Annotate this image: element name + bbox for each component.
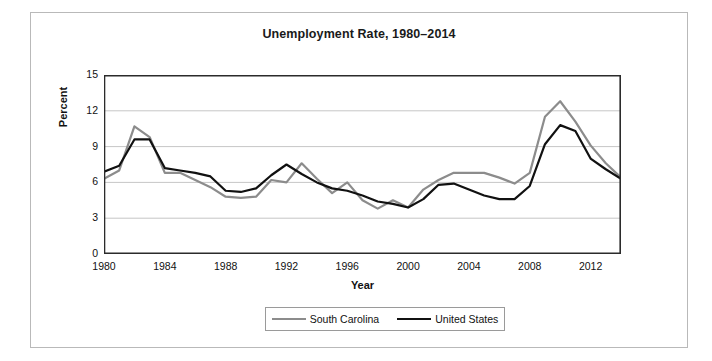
x-tick-label: 2012 [568, 260, 614, 272]
x-tick-label: 2004 [446, 260, 492, 272]
y-tick-label: 6 [58, 175, 98, 187]
legend-item: South Carolina [272, 313, 379, 325]
y-tick-label: 0 [58, 247, 98, 259]
legend-label: South Carolina [310, 313, 379, 325]
x-tick-label: 1992 [263, 260, 309, 272]
series-line-south-carolina [104, 101, 621, 208]
data-series-group [104, 101, 621, 208]
x-axis-label: Year [104, 279, 621, 291]
chart-legend: South CarolinaUnited States [265, 307, 505, 331]
legend-item: United States [397, 313, 498, 325]
x-tick-label: 1988 [203, 260, 249, 272]
x-axis-tick-labels: 198019841988199219962000200420082012 [104, 260, 621, 276]
series-line-united-states [104, 125, 621, 207]
x-tick-label: 1996 [324, 260, 370, 272]
x-tick-label: 2008 [507, 260, 553, 272]
x-tick-label: 1984 [142, 260, 188, 272]
y-axis-tick-labels: 15129630 [54, 75, 98, 254]
chart-title: Unemployment Rate, 1980–2014 [31, 27, 687, 41]
legend-line-swatch [397, 318, 431, 320]
chart-figure-panel: Unemployment Rate, 1980–2014 Percent 151… [30, 12, 688, 348]
y-tick-label: 15 [58, 68, 98, 80]
y-tick-label: 9 [58, 140, 98, 152]
plot-area [104, 75, 621, 254]
line-chart-svg [104, 75, 621, 254]
y-tick-label: 12 [58, 104, 98, 116]
legend-line-swatch [272, 318, 306, 320]
x-tick-label: 1980 [81, 260, 127, 272]
x-tick-label: 2000 [385, 260, 431, 272]
legend-label: United States [435, 313, 498, 325]
y-tick-label: 3 [58, 211, 98, 223]
